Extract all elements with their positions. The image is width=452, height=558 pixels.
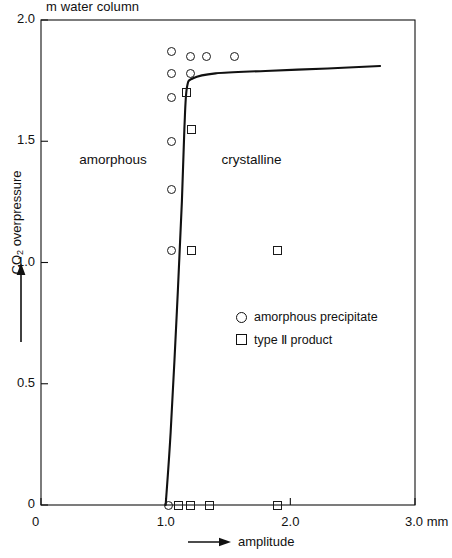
data-point-circle — [186, 69, 195, 78]
boundary-curve — [166, 66, 380, 505]
data-point-square — [186, 501, 195, 510]
region-label-crystalline: crystalline — [221, 152, 281, 167]
y-tick-label: 0 — [28, 496, 35, 511]
data-point-circle — [230, 52, 239, 61]
data-point-circle — [186, 52, 195, 61]
y-tick-label: 1.0 — [17, 254, 35, 269]
data-point-square — [174, 501, 183, 510]
x-tick-label: 1.0 — [157, 514, 175, 529]
x-tick-label: 3.0 mm — [405, 514, 448, 529]
legend-label-amorphous-precipitate: amorphous precipitate — [254, 310, 378, 324]
legend-item-amorphous-precipitate: amorphous precipitate — [236, 306, 378, 328]
x-tick-label: 2.0 — [281, 514, 299, 529]
y-tick-label: 1.5 — [17, 132, 35, 147]
data-point-square — [187, 246, 196, 255]
y-tick-label: 0.5 — [17, 375, 35, 390]
region-label-amorphous: amorphous — [79, 152, 147, 167]
legend-item-type-ii-product: type Ⅱ product — [236, 328, 378, 350]
data-point-square — [205, 501, 214, 510]
legend-square-marker-icon — [236, 334, 247, 345]
x-tick-label: 0 — [32, 514, 39, 529]
data-point-square — [182, 88, 191, 97]
data-point-square — [273, 501, 282, 510]
axes — [41, 20, 415, 505]
legend-label-type-ii-product: type Ⅱ product — [254, 332, 332, 347]
chart-legend: amorphous precipitate type Ⅱ product — [236, 306, 378, 350]
plot-canvas — [0, 0, 452, 558]
y-tick-label: 2.0 — [17, 11, 35, 26]
legend-circle-marker-icon — [236, 312, 247, 323]
data-point-square — [273, 246, 282, 255]
chart-figure: m water column CO2 overpressure amplitud… — [0, 0, 452, 558]
data-point-square — [187, 125, 196, 134]
data-point-circle — [164, 501, 173, 510]
